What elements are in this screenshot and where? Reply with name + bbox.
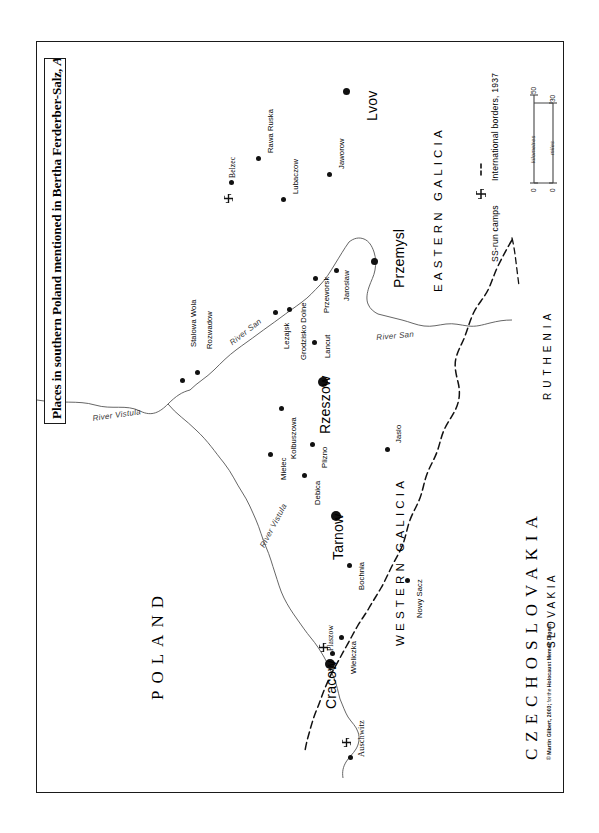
region-label-eastern-galicia: EASTERN GALICIA <box>432 126 444 292</box>
city-dot-kolbuszowa[interactable] <box>279 406 284 411</box>
city-label-wieliczka: Wieliczka <box>349 641 358 674</box>
city-dot-belzec[interactable] <box>229 180 234 185</box>
city-label-rawa-ruska: Rawa Ruska <box>266 109 275 153</box>
scale-value-mi-min: 0 <box>549 188 556 192</box>
city-dot-jaworow[interactable] <box>327 172 332 177</box>
swastika-icon-auschwitz <box>342 738 351 747</box>
credit-tail: Holocaust Memoir Digest <box>546 624 552 687</box>
city-label-plaszow: Plaszow <box>326 625 335 651</box>
legend-label-international-borders: International borders, 1937 <box>490 73 500 181</box>
city-dot-lvov[interactable] <box>343 88 350 95</box>
map-title-italic: And the Sun Kept Shining... <box>49 58 64 66</box>
scale-label-miles: miles <box>549 141 555 155</box>
city-label-auschwitz: Auschwitz <box>357 720 366 757</box>
city-dot-mielec[interactable] <box>268 452 273 457</box>
city-label-jaworow: Jaworow <box>337 138 346 169</box>
credit-middle: for the <box>547 687 552 703</box>
city-label-lancut: Lancut <box>323 335 332 358</box>
city-label-nowy-sacz: Nowy Sacz <box>415 579 424 618</box>
copyright-credit: © Martin Gilbert, 2003; for the Holocaus… <box>546 624 552 760</box>
swastika-icon-belzec <box>224 194 233 203</box>
city-label-lvov: Lvov <box>364 91 380 121</box>
swastika-icon-legend <box>476 189 485 198</box>
city-dot-debica[interactable] <box>302 473 307 478</box>
city-dot-przemysl[interactable] <box>371 258 378 265</box>
city-label-debica: Debica <box>313 481 322 505</box>
city-label-belzec: Belzec <box>228 157 237 178</box>
city-dot-lezajsk[interactable] <box>273 310 278 315</box>
city-dot-lubaczow[interactable] <box>281 197 286 202</box>
map-title: Places in southern Poland mentioned in B… <box>49 58 65 419</box>
country-label-czechoslovakia: CZECHOSLOVAKIA <box>522 509 542 760</box>
city-dot-rawa-ruska[interactable] <box>256 156 261 161</box>
city-label-rozwadow: Rozwadow <box>205 311 214 349</box>
city-label-lezajsk: Lezajsk <box>282 323 291 349</box>
city-dot-plizno[interactable] <box>310 442 315 447</box>
city-label-bochnia: Bochnia <box>357 562 366 590</box>
city-label-cracow: Cracow <box>323 660 339 709</box>
city-label-jaslo: Jaslo <box>394 425 403 443</box>
map-page: Places in southern Poland mentioned in B… <box>0 0 599 833</box>
city-label-mielec: Mielec <box>279 457 288 480</box>
city-label-przemysl: Przemysl <box>391 229 407 288</box>
city-dot-auschwitz[interactable] <box>348 755 353 760</box>
city-dot-przeworsk[interactable] <box>313 276 318 281</box>
city-dot-jaslo[interactable] <box>385 447 390 452</box>
city-label-stalowa-wola: Stalowa Wola <box>189 300 198 348</box>
city-dot-jaroslaw[interactable] <box>334 268 339 273</box>
city-label-jaroslaw: Jaroslaw <box>342 270 351 301</box>
city-dot-nowy-sacz[interactable] <box>405 578 410 583</box>
city-label-rzeszow: Rzeszow <box>317 376 333 434</box>
credit-lead: © Martin Gilbert, 2003; <box>546 704 552 760</box>
region-label-western-galicia: WESTERN GALICIA <box>394 477 406 646</box>
city-label-grodzisko-dolne: Grodzisko Dolne <box>299 302 308 360</box>
city-label-tarnow: Tarnow <box>330 514 346 560</box>
legend-label-ss-run-camps: SS-run camps <box>490 205 500 262</box>
city-label-lubaczow: Lubaczow <box>291 159 300 194</box>
city-dot-wieliczka[interactable] <box>339 635 344 640</box>
city-dot-lancut[interactable] <box>312 340 317 345</box>
city-dot-grodzisko-dolne[interactable] <box>287 307 292 312</box>
scale-label-kilometres: kilometres <box>530 136 536 164</box>
city-dot-bochnia[interactable] <box>347 563 352 568</box>
country-label-ruthenia: RUTHENIA <box>542 309 553 400</box>
city-dot-stalowa-wola[interactable] <box>180 378 185 383</box>
city-label-przeworsk: Przeworsk <box>322 277 331 313</box>
city-dot-rozwadow[interactable] <box>195 370 200 375</box>
city-label-plizno: Plizno <box>320 447 329 468</box>
city-dot-plaszow[interactable] <box>330 651 335 656</box>
scale-value-km-min: 0 <box>530 188 537 192</box>
map-title-box: Places in southern Poland mentioned in B… <box>44 58 66 424</box>
country-label-poland: POLAND <box>148 589 168 700</box>
scale-value-km-max: 50 <box>530 87 537 94</box>
city-label-kolbuszowa: Kolbuszowa <box>289 417 298 459</box>
scale-value-mi-max: 30 <box>549 95 556 102</box>
map-title-main: Places in southern Poland mentioned in B… <box>49 69 64 419</box>
